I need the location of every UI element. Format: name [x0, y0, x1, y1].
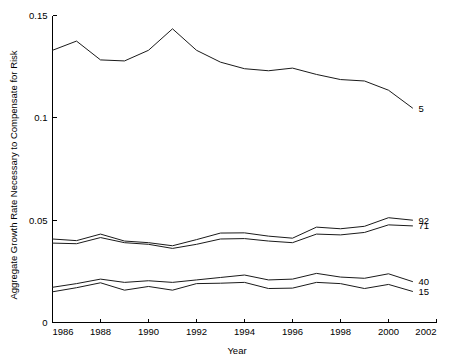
series-end-labels: 592714015 [419, 103, 430, 297]
series-line-15 [53, 282, 413, 291]
x-tick-label-2000: 2000 [378, 326, 399, 337]
y-axis-tick-labels: 00.050.10.15 [29, 10, 48, 328]
x-tick-label-1998: 1998 [330, 326, 351, 337]
y-axis-title: Aggregate Growth Rate Necessary to Compe… [8, 50, 19, 299]
series-label-71: 71 [419, 220, 430, 231]
y-tick-label-0.1: 0.1 [34, 112, 47, 123]
series-line-5 [53, 29, 413, 108]
x-tick-label-1990: 1990 [138, 326, 159, 337]
x-tick-label-2002: 2002 [415, 326, 436, 337]
axis-lines [53, 16, 437, 323]
series-label-5: 5 [419, 103, 424, 114]
x-tick-label-1996: 1996 [282, 326, 303, 337]
y-tick-label-0: 0 [42, 317, 47, 328]
y-axis-ticks [53, 16, 57, 323]
data-series-group [53, 29, 413, 292]
series-line-92 [53, 218, 413, 246]
chart-figure: 592714015 198619881990199219941996199820… [0, 0, 456, 363]
series-line-71 [53, 225, 413, 249]
axes [53, 16, 437, 323]
x-axis-tick-labels: 198619881990199219941996199820002002 [53, 326, 437, 337]
x-axis-title: Year [227, 345, 246, 356]
y-tick-label-0.15: 0.15 [29, 10, 48, 21]
x-tick-label-1988: 1988 [90, 326, 111, 337]
x-axis-ticks [53, 319, 437, 323]
x-tick-label-1994: 1994 [234, 326, 255, 337]
series-label-15: 15 [419, 286, 430, 297]
y-tick-label-0.05: 0.05 [29, 215, 48, 226]
x-tick-label-1986: 1986 [53, 326, 74, 337]
series-line-40 [53, 273, 413, 287]
x-tick-label-1992: 1992 [186, 326, 207, 337]
line-chart-svg: 592714015 198619881990199219941996199820… [0, 0, 456, 363]
